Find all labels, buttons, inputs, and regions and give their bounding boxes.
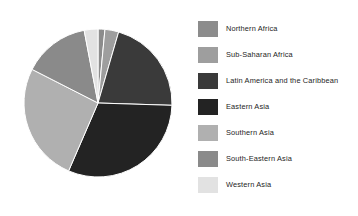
pie-slice-group — [24, 29, 172, 177]
legend-item-western-asia[interactable]: Western Asia — [196, 172, 358, 198]
chart-legend: Northern Africa Sub-Saharan Africa Latin… — [196, 16, 358, 206]
legend-swatch-icon — [198, 99, 218, 115]
legend-item-south-eastern-asia[interactable]: South-Eastern Asia — [196, 146, 358, 172]
legend-item-label: Sub-Saharan Africa — [226, 51, 293, 58]
legend-swatch-icon — [198, 47, 218, 63]
legend-item-label: Western Asia — [226, 181, 271, 188]
legend-item-label: Northern Africa — [226, 25, 278, 32]
legend-item-southern-asia[interactable]: Southern Asia — [196, 120, 358, 146]
legend-item-latin-america-and-the-caribbean[interactable]: Latin America and the Caribbean — [196, 68, 358, 94]
pie-chart-figure: Northern Africa Sub-Saharan Africa Latin… — [0, 0, 358, 216]
legend-item-label: Latin America and the Caribbean — [226, 77, 338, 84]
legend-item-label: Eastern Asia — [226, 103, 269, 110]
legend-item-northern-africa[interactable]: Northern Africa — [196, 16, 358, 42]
pie-plot-area — [0, 0, 196, 216]
legend-swatch-icon — [198, 177, 218, 193]
legend-item-eastern-asia[interactable]: Eastern Asia — [196, 94, 358, 120]
legend-item-label: Southern Asia — [226, 129, 274, 136]
legend-swatch-icon — [198, 73, 218, 89]
legend-swatch-icon — [198, 151, 218, 167]
legend-item-sub-saharan-africa[interactable]: Sub-Saharan Africa — [196, 42, 358, 68]
pie-svg — [0, 0, 196, 216]
legend-swatch-icon — [198, 21, 218, 37]
legend-item-label: South-Eastern Asia — [226, 155, 292, 162]
legend-swatch-icon — [198, 125, 218, 141]
